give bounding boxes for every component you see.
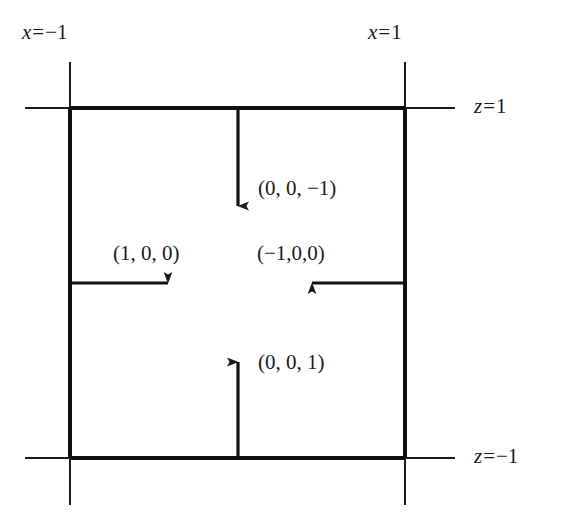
label-x-left-variable: x [22, 20, 31, 44]
label-z-top-equals: = [482, 94, 496, 118]
label-z-top-variable: z [474, 94, 482, 118]
label-z-equals-one: z=1 [474, 96, 507, 117]
label-x-right-value: 1 [391, 20, 402, 44]
label-normal-bottom: (0, 0, 1) [258, 352, 325, 373]
label-z-bottom-equals: = [482, 444, 496, 468]
label-normal-left: (1, 0, 0) [113, 243, 180, 264]
label-x-equals-one: x=1 [368, 22, 402, 43]
label-x-left-equals: = [31, 20, 45, 44]
label-z-bottom-variable: z [474, 444, 482, 468]
label-z-equals-minus-one: z=−1 [474, 446, 518, 467]
label-z-bottom-value: −1 [496, 444, 518, 468]
label-x-right-equals: = [377, 20, 391, 44]
figure-container: x=−1 x=1 z=1 z=−1 (0, 0, −1) (1, 0, 0) (… [0, 0, 568, 522]
label-z-top-value: 1 [496, 94, 507, 118]
label-x-right-variable: x [368, 20, 377, 44]
label-x-equals-minus-one: x=−1 [22, 22, 68, 43]
label-normal-right: (−1,0,0) [257, 243, 325, 264]
label-normal-top: (0, 0, −1) [258, 178, 336, 199]
label-x-left-value: −1 [45, 20, 67, 44]
